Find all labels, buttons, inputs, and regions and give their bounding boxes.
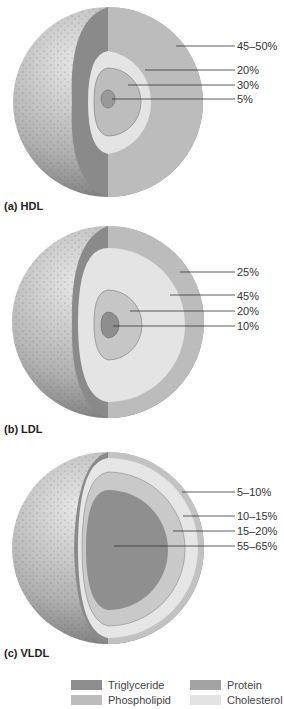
cholesterol-swatch xyxy=(190,695,221,705)
triglyceride-swatch xyxy=(71,680,102,690)
vldl-cholesterol-pct: 10–15% xyxy=(237,510,278,522)
ldl-triglyceride-pct: 20% xyxy=(237,305,259,317)
vldl-triglyceride-pct: 55–65% xyxy=(237,540,278,552)
hdl-cholesterol-pct: 20% xyxy=(237,64,259,76)
hdl-sphere: 45–50% 20% 30% 5% (a) HDL xyxy=(4,7,278,212)
vldl-phospholipid-pct: 15–20% xyxy=(237,525,278,537)
ldl-protein-pct: 10% xyxy=(237,320,259,332)
legend-item-protein: Protein xyxy=(190,679,262,691)
phospholipid-swatch xyxy=(71,695,102,705)
hdl-protein-pct: 5% xyxy=(237,93,253,105)
ldl-phospholipid-pct: 25% xyxy=(237,266,259,278)
legend-label: Protein xyxy=(227,679,262,691)
vldl-caption: (c) VLDL xyxy=(4,647,50,659)
vldl-protein-pct: 5–10% xyxy=(237,486,271,498)
lipoprotein-diagram: 45–50% 20% 30% 5% (a) HDL 25% 45% 20% 10… xyxy=(0,0,284,709)
legend-label: Triglyceride xyxy=(108,679,164,691)
ldl-sphere: 25% 45% 20% 10% (b) LDL xyxy=(4,226,259,435)
legend-item-cholesterol: Cholesterol xyxy=(190,694,283,706)
hdl-phospholipid-pct: 45–50% xyxy=(237,40,278,52)
ldl-caption: (b) LDL xyxy=(4,423,43,435)
ldl-cholesterol-pct: 45% xyxy=(237,290,259,302)
hdl-caption: (a) HDL xyxy=(4,200,43,212)
legend-label: Phospholipid xyxy=(108,694,171,706)
legend-label: Cholesterol xyxy=(227,694,283,706)
vldl-sphere: 5–10% 10–15% 15–20% 55–65% (c) VLDL xyxy=(4,452,278,659)
legend-item-phospholipid: Phospholipid xyxy=(71,694,171,706)
hdl-triglyceride-pct: 30% xyxy=(237,79,259,91)
legend-item-triglyceride: Triglyceride xyxy=(71,679,164,691)
protein-swatch xyxy=(190,680,221,690)
